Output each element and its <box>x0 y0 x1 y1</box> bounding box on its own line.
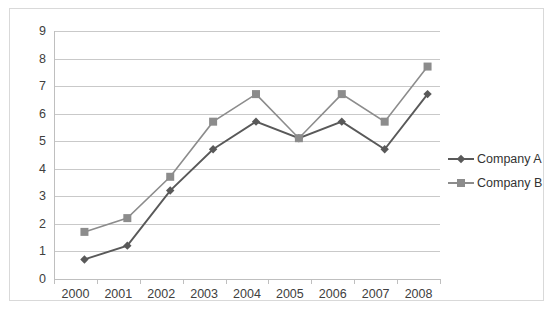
x-axis-line <box>54 279 441 280</box>
legend-label-company-a: Company A <box>477 153 542 166</box>
x-axis-tick <box>183 279 184 284</box>
y-axis-tick-label: 3 <box>20 190 46 203</box>
gridline <box>54 196 440 197</box>
legend-marker-square-icon <box>448 177 474 189</box>
y-axis-tick-label: 7 <box>20 80 46 93</box>
y-axis-tick-label: 9 <box>20 25 46 38</box>
gridline <box>54 224 440 225</box>
x-axis-tick <box>397 279 398 284</box>
gridline <box>54 114 440 115</box>
x-axis-tick-label: 2008 <box>389 288 449 301</box>
y-axis-tick-label: 4 <box>20 163 46 176</box>
y-axis-tick-label: 1 <box>20 245 46 258</box>
legend-item-company-a: Company A <box>448 147 548 171</box>
gridline <box>54 141 440 142</box>
y-axis-tick-label: 8 <box>20 53 46 66</box>
legend-marker-diamond-icon <box>448 153 474 165</box>
y-axis-tick-label: 5 <box>20 135 46 148</box>
x-axis-tick <box>226 279 227 284</box>
legend-label-company-b: Company B <box>477 177 542 190</box>
x-axis-tick <box>140 279 141 284</box>
chart-container: Company A Company B 01234567892000200120… <box>9 8 544 301</box>
x-axis-tick <box>97 279 98 284</box>
y-axis-tick-label: 2 <box>20 218 46 231</box>
chart-legend: Company A Company B <box>448 147 548 195</box>
gridline <box>54 59 440 60</box>
x-axis-tick <box>311 279 312 284</box>
y-axis-tick-label: 6 <box>20 108 46 121</box>
x-axis-tick <box>268 279 269 284</box>
gridline <box>54 31 440 32</box>
gridline <box>54 251 440 252</box>
gridline <box>54 169 440 170</box>
gridline <box>54 86 440 87</box>
y-axis-line <box>54 31 55 280</box>
plot-area <box>54 31 440 279</box>
y-axis-tick-label: 0 <box>20 273 46 286</box>
legend-item-company-b: Company B <box>448 171 548 195</box>
x-axis-tick <box>440 279 441 284</box>
x-axis-tick <box>354 279 355 284</box>
x-axis-tick <box>54 279 55 284</box>
